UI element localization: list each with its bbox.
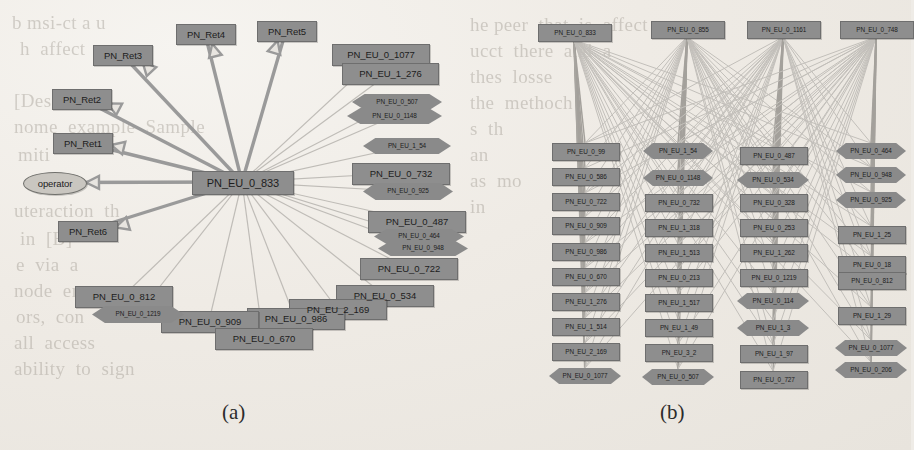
graph-node[interactable]: PN_EU_0_487 xyxy=(740,147,808,165)
panel-b-bipartite-graph: PN_EU_0_833PN_EU_0_855PN_EU_0_1161PN_EU_… xyxy=(500,0,911,395)
graph-node[interactable]: PN_EU_1_54 xyxy=(363,138,451,154)
graph-edge xyxy=(585,37,876,293)
graph-node[interactable]: PN_EU_0_812 xyxy=(838,272,906,290)
graph-node[interactable]: PN_EU_1_29 xyxy=(838,307,906,325)
graph-node[interactable]: PN_EU_0_534 xyxy=(737,172,809,188)
graph-node[interactable]: PN_Ret2 xyxy=(52,89,112,110)
graph-node[interactable]: PN_Ret1 xyxy=(53,133,113,154)
node-label: PN_EU_0_812 xyxy=(851,278,893,284)
node-label: PN_EU_0_925 xyxy=(850,197,892,203)
graph-node[interactable]: PN_EU_0_206 xyxy=(835,362,907,378)
graph-node[interactable]: PN_EU_0_986 xyxy=(552,243,620,261)
graph-node[interactable]: PN_EU_0_732 xyxy=(645,194,713,212)
caption-a: (a) xyxy=(222,400,245,425)
graph-node[interactable]: PN_EU_1_517 xyxy=(645,294,713,312)
node-label: PN_EU_0_812 xyxy=(93,292,155,302)
node-label: PN_EU_1_54 xyxy=(388,143,426,149)
graph-node[interactable]: PN_EU_1_97 xyxy=(740,345,808,363)
node-label: PN_EU_0_487 xyxy=(753,153,795,159)
graph-node[interactable]: PN_EU_0_833 xyxy=(192,171,294,195)
node-label: PN_EU_1_29 xyxy=(853,313,891,319)
graph-node[interactable]: PN_EU_0_464 xyxy=(836,143,906,159)
graph-node[interactable]: PN_EU_0_1219 xyxy=(92,306,184,323)
graph-node[interactable]: PN_EU_0_670 xyxy=(215,328,313,350)
graph-node[interactable]: PN_EU_0_925 xyxy=(836,192,906,208)
graph-node[interactable]: operator xyxy=(23,172,87,195)
node-label: PN_EU_1_3 xyxy=(756,325,791,331)
node-label: PN_EU_0_534 xyxy=(354,291,416,301)
graph-node[interactable]: PN_EU_1_262 xyxy=(740,244,808,262)
node-label: PN_EU_0_1077 xyxy=(347,50,414,60)
node-label: PN_EU_0_1219 xyxy=(752,275,797,281)
graph-node[interactable]: PN_EU_1_49 xyxy=(645,319,713,337)
edge-arrowhead xyxy=(209,44,222,58)
node-label: PN_EU_1_276 xyxy=(565,299,607,305)
node-label: PN_EU_0_909 xyxy=(565,223,607,229)
graph-node[interactable]: PN_EU_0_925 xyxy=(363,183,453,200)
graph-node[interactable]: PN_EU_0_727 xyxy=(740,371,808,389)
graph-node[interactable]: PN_EU_0_1077 xyxy=(835,340,907,356)
graph-node[interactable]: PN_EU_0_1219 xyxy=(740,269,808,287)
node-label: PN_EU_0_855 xyxy=(667,27,709,33)
node-label: PN_EU_0_986 xyxy=(265,314,327,324)
graph-node[interactable]: PN_EU_0_722 xyxy=(552,193,620,211)
graph-node[interactable]: PN_EU_0_1077 xyxy=(549,368,621,384)
graph-node[interactable]: PN_EU_0_507 xyxy=(642,369,714,385)
node-label: PN_EU_1_514 xyxy=(565,324,607,330)
graph-node[interactable]: PN_EU_0_732 xyxy=(352,163,450,185)
graph-node[interactable]: PN_Ret4 xyxy=(176,24,236,45)
graph-node[interactable]: PN_EU_0_1148 xyxy=(643,170,713,186)
node-label: PN_EU_1_318 xyxy=(658,225,700,231)
graph-node[interactable]: PN_Ret3 xyxy=(93,45,153,66)
graph-node[interactable]: PN_EU_1_514 xyxy=(552,318,620,336)
graph-edge xyxy=(585,37,876,368)
node-label: PN_EU_2_169 xyxy=(565,349,607,355)
node-label: PN_EU_0_487 xyxy=(386,217,448,227)
graph-node[interactable]: PN_EU_1_25 xyxy=(838,226,906,244)
graph-node[interactable]: PN_EU_0_748 xyxy=(840,21,914,39)
node-label: PN_EU_0_464 xyxy=(398,233,440,239)
node-label: PN_EU_0_114 xyxy=(752,298,793,304)
graph-node[interactable]: PN_EU_1_318 xyxy=(645,219,713,237)
graph-node[interactable]: PN_EU_0_1148 xyxy=(347,108,442,124)
graph-node[interactable]: PN_Ret5 xyxy=(257,21,317,42)
node-label: PN_EU_0_732 xyxy=(370,169,432,179)
node-label: PN_EU_0_1148 xyxy=(656,175,701,181)
graph-node[interactable]: PN_EU_3_2 xyxy=(645,344,713,362)
node-label: PN_EU_0_1148 xyxy=(372,113,417,119)
graph-node[interactable]: PN_EU_1_276 xyxy=(342,63,439,85)
node-label: PN_EU_0_948 xyxy=(850,172,892,178)
edge-arrowhead xyxy=(86,176,99,189)
graph-node[interactable]: PN_EU_0_722 xyxy=(360,258,458,280)
graph-node[interactable]: PN_EU_0_213 xyxy=(645,269,713,287)
graph-node[interactable]: PN_EU_1_513 xyxy=(645,244,713,262)
graph-node[interactable]: PN_EU_0_948 xyxy=(378,241,468,256)
graph-node[interactable]: PN_EU_0_253 xyxy=(740,219,808,237)
graph-node[interactable]: PN_EU_0_909 xyxy=(552,217,620,235)
node-label: PN_EU_0_1161 xyxy=(762,27,807,33)
node-label: PN_EU_0_722 xyxy=(378,264,440,274)
node-label: PN_EU_0_213 xyxy=(658,275,700,281)
graph-node[interactable]: PN_EU_0_114 xyxy=(737,293,809,309)
graph-node[interactable]: PN_EU_1_3 xyxy=(737,320,809,336)
graph-node[interactable]: PN_EU_0_1161 xyxy=(747,21,821,39)
graph-node[interactable]: PN_EU_0_586 xyxy=(552,168,620,186)
graph-node[interactable]: PN_EU_0_812 xyxy=(75,286,173,308)
graph-node[interactable]: PN_EU_0_833 xyxy=(538,24,612,42)
graph-node[interactable]: PN_EU_0_948 xyxy=(836,167,906,183)
node-label: PN_EU_0_18 xyxy=(853,262,891,268)
node-label: PN_EU_0_1219 xyxy=(116,311,161,317)
graph-node[interactable]: PN_EU_1_54 xyxy=(643,143,713,159)
graph-node[interactable]: PN_EU_1_276 xyxy=(552,293,620,311)
graph-node[interactable]: PN_EU_0_670 xyxy=(552,268,620,286)
graph-node[interactable]: PN_Ret6 xyxy=(58,221,118,242)
graph-node[interactable]: PN_EU_0_855 xyxy=(651,21,725,39)
node-label: PN_EU_0_722 xyxy=(565,199,607,205)
graph-node[interactable]: PN_EU_0_328 xyxy=(740,194,808,212)
node-label: PN_EU_0_748 xyxy=(856,27,898,33)
node-label: PN_Ret2 xyxy=(63,95,101,105)
caption-b: (b) xyxy=(660,400,685,425)
graph-node[interactable]: PN_EU_2_169 xyxy=(552,343,620,361)
graph-node[interactable]: PN_EU_0_99 xyxy=(552,143,620,161)
node-label: PN_EU_0_833 xyxy=(207,178,279,189)
